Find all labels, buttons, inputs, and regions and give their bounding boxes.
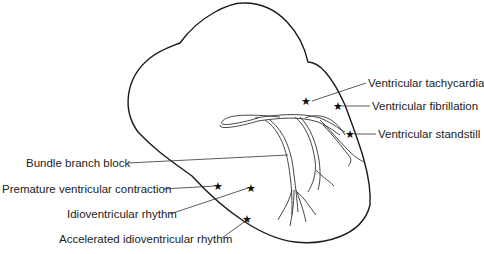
marker-vt: ★	[301, 96, 311, 107]
label-ventricular-fibrillation: Ventricular fibrillation	[372, 100, 478, 113]
label-ventricular-standstill: Ventricular standstill	[378, 128, 480, 141]
label-idioventricular-rhythm: Idioventricular rhythm	[67, 208, 177, 221]
label-premature-ventricular-contraction: Premature ventricular contraction	[2, 183, 171, 196]
marker-aivr: ★	[242, 214, 252, 225]
marker-vs: ★	[345, 129, 355, 140]
conduction-system	[220, 115, 364, 226]
marker-pvc: ★	[213, 181, 223, 192]
label-ventricular-tachycardia: Ventricular tachycardia	[368, 77, 484, 90]
marker-ivr: ★	[246, 183, 256, 194]
ventricle-outline	[128, 3, 370, 243]
label-bundle-branch-block: Bundle branch block	[26, 157, 130, 170]
marker-vf: ★	[333, 101, 343, 112]
label-accelerated-idioventricular-rhythm: Accelerated idioventricular rhythm	[59, 233, 232, 246]
